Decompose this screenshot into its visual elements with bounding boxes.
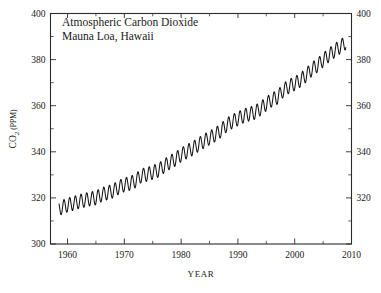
x-axis-tick-label: 2000 [285,250,304,260]
y-axis-tick-label: 340 [357,147,372,157]
y-axis-tick-label: 320 [31,193,46,203]
y-axis-tick-label: 300 [31,239,46,249]
y-axis-title-units: (PPM) [9,109,18,132]
y-axis-tick-label: 360 [357,101,372,111]
y-axis-tick-label: 360 [31,101,46,111]
x-axis-tick-label: 1960 [58,250,77,260]
chart-title-line-2: Mauna Loa, Hawaii [62,30,154,43]
x-axis-tick-label: 1970 [115,250,134,260]
y-axis-tick-label: 400 [31,9,46,19]
co2-line-chart: 300320340360380400 320340360380400 19601… [0,0,381,293]
y-axis-title-main: CO [8,135,18,148]
x-axis-tick-label: 1990 [228,250,247,260]
y-axis-tick-label: 400 [357,9,372,19]
y-axis-tick-label: 380 [357,55,372,65]
y-axis-tick-label: 320 [357,193,372,203]
chart-title-line-1: Atmospheric Carbon Dioxide [62,16,198,29]
x-axis-tick-label: 2010 [342,250,361,260]
x-axis-tick-label: 1980 [172,250,191,260]
chart-figure: 300320340360380400 320340360380400 19601… [0,0,381,293]
x-axis-title: YEAR [188,269,215,279]
y-axis-tick-label: 340 [31,147,46,157]
y-axis-tick-label: 380 [31,55,46,65]
